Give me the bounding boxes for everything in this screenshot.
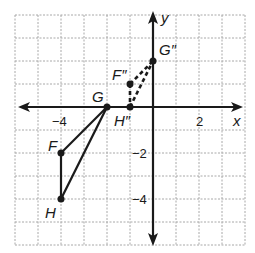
coordinate-plane: y x −4 2 −2 −4 F G H F″ G″ H″ — [0, 0, 255, 253]
label-g-double-prime: G″ — [159, 41, 177, 58]
point-g-double-prime — [150, 58, 157, 65]
y-axis-label: y — [160, 9, 170, 26]
x-axis-label: x — [232, 112, 241, 129]
point-g — [104, 104, 111, 111]
label-g: G — [92, 88, 104, 105]
point-h — [58, 196, 65, 203]
y-tick-neg2: −2 — [132, 146, 147, 161]
point-f — [58, 150, 65, 157]
point-f-double-prime — [127, 81, 134, 88]
x-tick-neg4: −4 — [52, 114, 67, 129]
point-h-double-prime — [127, 104, 134, 111]
label-f-double-prime: F″ — [112, 66, 127, 83]
y-tick-neg4: −4 — [132, 192, 147, 207]
label-h-double-prime: H″ — [114, 112, 131, 129]
label-h: H — [45, 204, 56, 221]
label-f: F — [48, 137, 58, 154]
x-tick-2: 2 — [196, 114, 203, 129]
